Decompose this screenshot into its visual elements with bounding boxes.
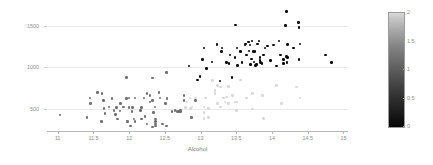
data-point: [282, 58, 285, 61]
data-point: [151, 99, 154, 102]
data-point: [280, 102, 283, 105]
data-point: [258, 40, 261, 43]
data-point: [235, 101, 238, 104]
colorbar: 00.511.52: [388, 12, 432, 130]
x-tick-mark: [236, 131, 237, 134]
data-point: [279, 54, 282, 57]
data-point: [104, 112, 107, 115]
data-point: [201, 58, 204, 61]
data-point: [59, 114, 62, 117]
data-point: [224, 101, 227, 104]
colorbar-tick-mark: [403, 98, 405, 99]
data-point: [152, 111, 155, 114]
data-point: [140, 118, 143, 121]
data-point: [231, 76, 234, 79]
y-tick-mark: [44, 26, 47, 27]
data-point: [140, 106, 143, 109]
data-point: [144, 115, 147, 118]
data-point: [330, 61, 333, 64]
gridline-y: [47, 26, 347, 27]
data-point: [179, 110, 182, 113]
x-tick-mark: [58, 131, 59, 134]
data-point: [219, 80, 222, 83]
data-point: [129, 125, 132, 128]
data-point: [128, 97, 131, 100]
data-point: [205, 67, 208, 70]
data-point: [286, 56, 289, 59]
y-tick-mark: [44, 109, 47, 110]
data-point: [149, 94, 152, 97]
data-point: [125, 76, 128, 79]
colorbar-tick-mark: [403, 12, 405, 13]
data-point: [158, 91, 161, 94]
data-point: [324, 54, 327, 57]
data-point: [227, 85, 230, 88]
data-point: [298, 58, 301, 61]
data-point: [245, 97, 248, 100]
data-point: [146, 92, 149, 95]
data-point: [196, 79, 199, 82]
gridline-y: [47, 109, 347, 110]
x-tick-label: 14: [260, 135, 284, 141]
data-point: [115, 106, 118, 109]
data-point: [299, 43, 302, 46]
data-point: [235, 109, 238, 112]
data-point: [259, 56, 262, 59]
data-point: [249, 63, 252, 66]
data-point: [234, 56, 237, 59]
plot-area: [47, 8, 347, 130]
colorbar-tick-mark: [403, 69, 405, 70]
colorbar-tick-mark: [403, 126, 405, 127]
data-point: [282, 62, 285, 65]
x-tick-mark: [165, 131, 166, 134]
data-point: [207, 116, 210, 119]
data-point: [261, 62, 264, 65]
gridline-y: [47, 67, 347, 68]
colorbar-gradient: [388, 12, 405, 128]
data-point: [186, 101, 189, 104]
data-point: [262, 54, 265, 57]
data-point: [247, 41, 250, 44]
data-point: [286, 61, 289, 64]
data-point: [299, 97, 302, 100]
data-point: [151, 77, 154, 80]
data-point: [241, 61, 244, 64]
x-tick-mark: [308, 131, 309, 134]
data-point: [285, 10, 288, 13]
data-point: [286, 43, 289, 46]
colorbar-tick-mark: [403, 41, 405, 42]
colorbar-tick-label: 0.5: [407, 95, 415, 101]
data-point: [236, 64, 239, 67]
data-point: [266, 45, 269, 48]
data-point: [272, 44, 275, 47]
x-tick-label: 14.5: [296, 135, 320, 141]
data-point: [261, 94, 264, 97]
data-point: [220, 50, 223, 53]
data-point: [264, 47, 267, 50]
data-point: [231, 94, 234, 97]
data-point: [221, 47, 224, 50]
data-point: [207, 107, 210, 110]
data-point: [211, 79, 214, 82]
data-point: [251, 92, 254, 95]
data-point: [143, 97, 146, 100]
data-point: [216, 43, 219, 46]
data-point: [250, 58, 253, 61]
y-tick-label: 1000: [13, 64, 39, 70]
data-point: [101, 92, 104, 95]
data-point: [139, 109, 142, 112]
data-point: [134, 120, 137, 123]
data-point: [146, 123, 149, 126]
data-point: [203, 47, 206, 50]
data-point: [227, 102, 230, 105]
x-tick-mark: [201, 131, 202, 134]
data-point: [229, 54, 232, 57]
data-point: [211, 61, 214, 64]
colorbar-tick-label: 1: [407, 66, 410, 72]
data-point: [194, 97, 197, 100]
data-point: [122, 106, 125, 109]
data-point: [248, 50, 251, 53]
x-tick-mark: [93, 131, 94, 134]
data-point: [236, 47, 239, 50]
data-point: [256, 43, 259, 46]
